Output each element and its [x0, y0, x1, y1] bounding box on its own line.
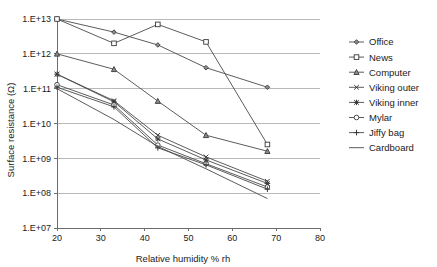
y-tick-label: 1.E+11	[23, 84, 51, 94]
series-marker	[55, 17, 60, 22]
x-axis-title: Relative humidity % rh	[136, 253, 231, 264]
legend-label: Cardboard	[369, 142, 414, 153]
chart-container: 1.E+071.E+081.E+091.E+101.E+111.E+121.E+…	[0, 0, 437, 267]
y-tick-label: 1.E+12	[22, 49, 51, 59]
x-tick-label: 60	[227, 233, 237, 243]
legend-marker	[354, 115, 359, 120]
y-tick-label: 1.E+07	[22, 223, 51, 233]
series-marker	[112, 41, 117, 46]
x-tick-label: 70	[271, 233, 281, 243]
x-tick-label: 80	[315, 233, 325, 243]
x-tick-label: 30	[96, 233, 106, 243]
legend-label: Viking outer	[369, 82, 419, 93]
legend-label: Office	[369, 36, 394, 47]
surface-resistance-line-chart: 1.E+071.E+081.E+091.E+101.E+111.E+121.E+…	[0, 0, 437, 267]
x-tick-label: 40	[140, 233, 150, 243]
y-axis-title: Surface resistance (Ω)	[5, 83, 16, 178]
legend-label: Viking inner	[369, 97, 418, 108]
series-marker	[156, 22, 161, 27]
y-tick-label: 1.E+08	[22, 188, 51, 198]
legend-label: Jiffy bag	[369, 127, 404, 138]
legend-marker	[354, 100, 359, 105]
legend-label: Computer	[369, 67, 411, 78]
series-marker	[204, 40, 209, 45]
y-tick-label: 1.E+10	[22, 119, 51, 129]
y-tick-label: 1.E+09	[22, 154, 51, 164]
series-marker	[265, 142, 270, 147]
x-tick-label: 50	[183, 233, 193, 243]
y-tick-label: 1.E+13	[22, 14, 51, 24]
series-marker	[155, 136, 160, 141]
series-marker	[54, 72, 59, 77]
legend-label: News	[369, 52, 393, 63]
x-tick-label: 20	[52, 233, 62, 243]
legend-marker	[354, 55, 359, 60]
legend-label: Mylar	[369, 112, 392, 123]
